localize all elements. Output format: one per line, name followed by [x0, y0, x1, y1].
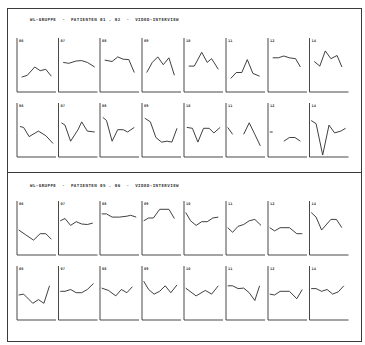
panel-label: 08	[102, 267, 106, 271]
panel-axes	[100, 38, 139, 92]
panel-label: 07	[61, 104, 65, 108]
data-line	[102, 287, 133, 296]
line-panel: 08	[100, 201, 139, 255]
data-line	[189, 52, 219, 69]
panel-axes	[17, 38, 56, 92]
line-panel: 11	[226, 266, 265, 320]
line-panel: 12	[268, 266, 307, 320]
line-panel: 12	[268, 201, 307, 255]
line-panel: 10	[184, 266, 223, 320]
data-line	[19, 230, 52, 240]
data-line	[311, 286, 344, 294]
panel-label: 11	[228, 104, 232, 108]
panel-label: 09	[144, 104, 148, 108]
data-line	[311, 121, 345, 156]
line-panel: 09	[142, 201, 181, 255]
data-line	[244, 123, 261, 146]
line-panel: 07	[59, 201, 98, 255]
data-line	[103, 117, 135, 141]
line-panel: 09	[142, 266, 181, 320]
panel-label: 11	[228, 267, 232, 271]
panel-axes	[17, 266, 56, 320]
panel-label: 09	[144, 39, 148, 43]
data-line	[273, 56, 301, 67]
panel-axes	[184, 201, 223, 255]
panel-axes	[268, 266, 307, 320]
panel-axes	[184, 266, 223, 320]
data-line	[102, 214, 137, 217]
panel-label: 14	[312, 39, 316, 43]
data-line	[147, 57, 175, 75]
line-panel: 06	[17, 103, 56, 157]
line-panel: 06	[17, 38, 56, 92]
data-line	[231, 60, 260, 79]
data-line	[186, 286, 219, 296]
line-panel: 09	[142, 103, 181, 157]
line-panel: 12	[268, 38, 307, 92]
panel-axes	[310, 38, 349, 92]
data-line	[311, 213, 342, 231]
line-panel: 09	[142, 38, 181, 92]
panel-axes	[100, 201, 139, 255]
panel-axes	[17, 103, 56, 157]
data-line	[187, 127, 220, 142]
panel-label: 10	[186, 104, 190, 108]
panel-label: 12	[270, 104, 274, 108]
panel-label: 06	[19, 39, 23, 43]
panel-label: 12	[270, 267, 274, 271]
data-line	[228, 219, 261, 232]
panel-axes	[142, 38, 181, 92]
panel-label: 10	[186, 39, 190, 43]
line-panel: 06	[17, 266, 56, 320]
line-panel: 11	[226, 38, 265, 92]
panel-axes	[142, 103, 181, 157]
panel-label: 08	[102, 104, 106, 108]
panel-label: 10	[186, 267, 190, 271]
panel-label: 08	[102, 39, 106, 43]
data-line	[61, 122, 94, 141]
panel-axes	[17, 201, 56, 255]
panel-axes	[268, 38, 307, 92]
data-line	[144, 209, 175, 221]
panel-label: 07	[61, 267, 65, 271]
panel-label: 11	[228, 202, 232, 206]
data-line	[270, 228, 303, 234]
panel-axes	[59, 201, 98, 255]
panel-axes	[142, 266, 181, 320]
panel-axes	[100, 266, 139, 320]
panel-label: 06	[19, 202, 23, 206]
line-panel: 07	[59, 103, 98, 157]
panel-label: 14	[312, 202, 316, 206]
panel-label: 06	[19, 267, 23, 271]
panel-axes	[310, 201, 349, 255]
panel-label: 10	[186, 202, 190, 206]
line-panel: 06	[17, 201, 56, 255]
line-panel: 14	[310, 266, 349, 320]
line-panel: 12	[268, 103, 307, 157]
panel-label: 12	[270, 202, 274, 206]
line-panel: 07	[59, 266, 98, 320]
line-panel: 10	[184, 103, 223, 157]
panel-label: 09	[144, 202, 148, 206]
panel-label: 07	[61, 39, 65, 43]
panel-label: 06	[19, 104, 23, 108]
data-line	[22, 67, 52, 77]
line-panel: 11	[226, 201, 265, 255]
panel-axes	[226, 38, 265, 92]
line-panel: 14	[310, 38, 349, 92]
line-panel: 08	[100, 266, 139, 320]
data-line	[186, 213, 219, 226]
line-panel: 10	[184, 38, 223, 92]
line-panel: 11	[226, 103, 265, 157]
data-line	[63, 61, 94, 67]
panel-axes	[226, 201, 265, 255]
panel-axes	[268, 103, 307, 157]
panel-label: 08	[102, 202, 106, 206]
data-line	[228, 127, 233, 134]
panel-label: 11	[228, 39, 232, 43]
data-line	[105, 57, 135, 73]
data-line	[60, 219, 93, 226]
line-panel: 14	[310, 103, 349, 157]
data-line	[60, 284, 93, 293]
line-panel: 08	[100, 103, 139, 157]
